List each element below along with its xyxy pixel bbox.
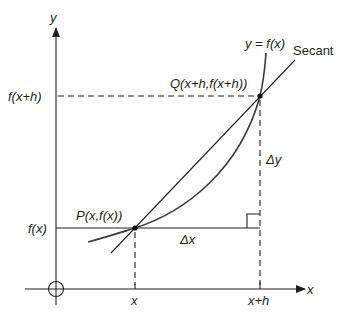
point-q (257, 93, 262, 98)
x-tick-label-x: x (130, 293, 138, 308)
curve-label: y = f(x) (244, 36, 285, 51)
delta-x-label: Δx (179, 232, 196, 247)
secant-diagram: y x y = f(x) Secant Q(x+h,f(x+h)) P(x,f(… (0, 0, 345, 321)
secant-label: Secant (293, 43, 334, 58)
point-q-label: Q(x+h,f(x+h)) (170, 76, 247, 91)
right-angle-marker (247, 214, 260, 228)
y-tick-label-fx: f(x) (28, 221, 47, 236)
y-tick-label-fxh: f(x+h) (8, 89, 42, 104)
x-tick-label-xh: x+h (247, 293, 269, 308)
x-axis-label: x (306, 282, 314, 297)
delta-y-label: Δy (265, 152, 283, 167)
point-p (132, 225, 137, 230)
y-axis-label: y (49, 10, 58, 25)
point-p-label: P(x,f(x)) (76, 208, 122, 223)
